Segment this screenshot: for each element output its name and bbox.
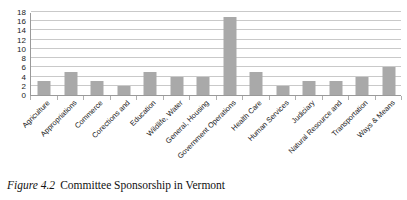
y-axis-tick-label: 4 [22,74,26,82]
plot-area [30,13,401,96]
figure-container: 024681012141618 AgricultureAppropriation… [0,0,407,200]
bar-slot [31,13,58,95]
y-axis-tick-label: 16 [17,18,26,26]
y-axis-tick-label: 2 [22,83,26,91]
figure-title: Committee Sponsorship in Vermont [60,179,225,191]
figure-number: Figure 4.2 [7,179,55,191]
y-axis-tick-label: 6 [22,64,26,72]
bar[interactable] [38,81,51,95]
y-axis-tick-label: 0 [22,92,26,100]
y-axis-tick-label: 18 [17,9,26,17]
y-axis-tick-label: 10 [17,46,26,54]
bar-series [31,13,401,95]
bar-chart: 024681012141618 AgricultureAppropriation… [0,0,407,165]
y-axis-tick-labels: 024681012141618 [0,13,28,96]
gridline [31,11,401,12]
y-axis-tick-label: 14 [17,27,26,35]
x-axis-category-labels: AgricultureAppropriationsCommerceCorecti… [30,99,401,163]
figure-caption: Figure 4.2Committee Sponsorship in Vermo… [7,178,225,192]
y-axis-tick-label: 12 [17,37,26,45]
y-axis-tick-label: 8 [22,55,26,63]
